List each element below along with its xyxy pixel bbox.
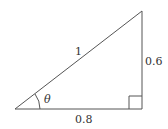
opposite-label: 0.6 <box>145 55 163 68</box>
angle-theta-label: θ <box>44 93 51 106</box>
triangle <box>15 11 142 109</box>
adjacent-label: 0.8 <box>75 113 93 126</box>
right-angle-marker <box>129 96 142 109</box>
angle-arc <box>35 94 40 109</box>
right-triangle-diagram: 1 0.6 0.8 θ <box>0 0 168 129</box>
hypotenuse-label: 1 <box>75 45 82 58</box>
